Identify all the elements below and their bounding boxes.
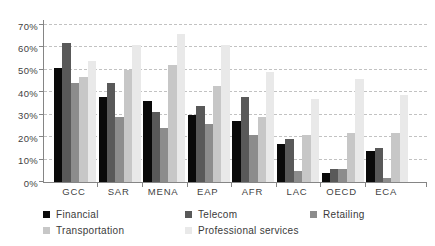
bar-transportation-gcc — [79, 77, 87, 182]
legend-label-financial: Financial — [56, 209, 99, 220]
bar-financial-afr — [232, 121, 240, 182]
bar-financial-eca — [366, 151, 374, 182]
y-axis-tick-label: 10% — [4, 155, 38, 166]
bar-telecom-gcc — [62, 43, 70, 182]
bar-retailing-lac — [294, 171, 302, 182]
bar-retailing-gcc — [71, 83, 79, 182]
bar-transportation-eca — [391, 133, 399, 182]
y-axis-tick — [39, 91, 44, 92]
y-axis-tick — [39, 159, 44, 160]
bar-telecom-mena — [152, 112, 160, 182]
bar-professional-services-eap — [221, 45, 229, 182]
bar-professional-services-gcc — [88, 61, 96, 182]
bar-transportation-afr — [258, 117, 266, 182]
x-axis-category-label-eca: ECA — [363, 186, 409, 197]
bar-group-sar — [99, 20, 141, 182]
bar-telecom-sar — [107, 83, 115, 182]
y-axis-tick — [39, 136, 44, 137]
legend-label-transportation: Transportation — [56, 225, 124, 236]
legend-swatch-retailing — [310, 211, 317, 218]
bar-retailing-oecd — [338, 169, 346, 182]
y-axis-tick — [39, 69, 44, 70]
bar-group-oecd — [322, 20, 364, 182]
bar-transportation-mena — [168, 65, 176, 182]
legend-swatch-financial — [43, 211, 50, 218]
x-axis-category-label-gcc: GCC — [51, 186, 97, 197]
legend-swatch-transportation — [43, 227, 50, 234]
bar-professional-services-lac — [311, 99, 319, 182]
bar-transportation-lac — [302, 135, 310, 182]
bar-group-afr — [232, 20, 274, 182]
y-axis-tick-label: 50% — [4, 65, 38, 76]
bar-retailing-mena — [160, 128, 168, 182]
x-axis-tick — [426, 182, 427, 187]
y-axis-tick-label: 30% — [4, 110, 38, 121]
bar-financial-lac — [277, 144, 285, 182]
bar-transportation-oecd — [347, 133, 355, 182]
bar-retailing-eap — [205, 124, 213, 182]
x-axis-category-label-afr: AFR — [229, 186, 275, 197]
legend-item-transportation: Transportation — [43, 224, 124, 236]
y-axis-tick-label: 40% — [4, 88, 38, 99]
legend-label-professional-services: Professional services — [198, 225, 299, 236]
plot-area — [43, 20, 427, 183]
bar-financial-mena — [143, 101, 151, 182]
bar-group-lac — [277, 20, 319, 182]
y-axis-tick-label: 70% — [4, 21, 38, 32]
bar-professional-services-sar — [132, 45, 140, 182]
bar-professional-services-afr — [266, 72, 274, 182]
bar-retailing-eca — [383, 178, 391, 182]
bar-financial-eap — [188, 115, 196, 182]
bar-telecom-oecd — [330, 169, 338, 182]
bar-financial-oecd — [322, 173, 330, 182]
bar-telecom-lac — [285, 139, 293, 182]
bar-group-gcc — [54, 20, 96, 182]
bar-retailing-sar — [115, 117, 123, 182]
bar-professional-services-oecd — [355, 79, 363, 182]
legend-label-telecom: Telecom — [198, 209, 237, 220]
y-axis-tick — [39, 181, 44, 182]
legend-label-retailing: Retailing — [323, 209, 365, 220]
y-axis-tick — [39, 24, 44, 25]
y-axis-tick — [39, 114, 44, 115]
bar-transportation-eap — [213, 86, 221, 182]
y-axis-tick-label: 0% — [4, 178, 38, 189]
legend-item-professional-services: Professional services — [185, 224, 299, 236]
bar-chart: 0%10%20%30%40%50%60%70% GCCSARMENAEAPAFR… — [0, 0, 435, 246]
legend-item-retailing: Retailing — [310, 208, 365, 220]
legend-item-financial: Financial — [43, 208, 99, 220]
bar-telecom-eca — [375, 148, 383, 182]
x-axis-category-label-eap: EAP — [185, 186, 231, 197]
legend-swatch-telecom — [185, 211, 192, 218]
bar-telecom-eap — [196, 106, 204, 182]
x-axis-category-label-lac: LAC — [274, 186, 320, 197]
y-axis-tick-label: 60% — [4, 43, 38, 54]
bar-financial-sar — [99, 97, 107, 182]
bar-financial-gcc — [54, 68, 62, 182]
x-axis-category-label-oecd: OECD — [319, 186, 365, 197]
bar-group-eap — [188, 20, 230, 182]
bar-telecom-afr — [241, 97, 249, 182]
x-axis-category-label-sar: SAR — [96, 186, 142, 197]
x-axis-category-label-mena: MENA — [140, 186, 186, 197]
legend-item-telecom: Telecom — [185, 208, 237, 220]
bar-transportation-sar — [124, 70, 132, 182]
bar-professional-services-eca — [400, 95, 408, 182]
y-axis-tick — [39, 46, 44, 47]
bar-retailing-afr — [249, 135, 257, 182]
bar-group-mena — [143, 20, 185, 182]
y-axis-tick-label: 20% — [4, 133, 38, 144]
bar-professional-services-mena — [177, 34, 185, 182]
bar-group-eca — [366, 20, 408, 182]
legend-swatch-professional-services — [185, 227, 192, 234]
